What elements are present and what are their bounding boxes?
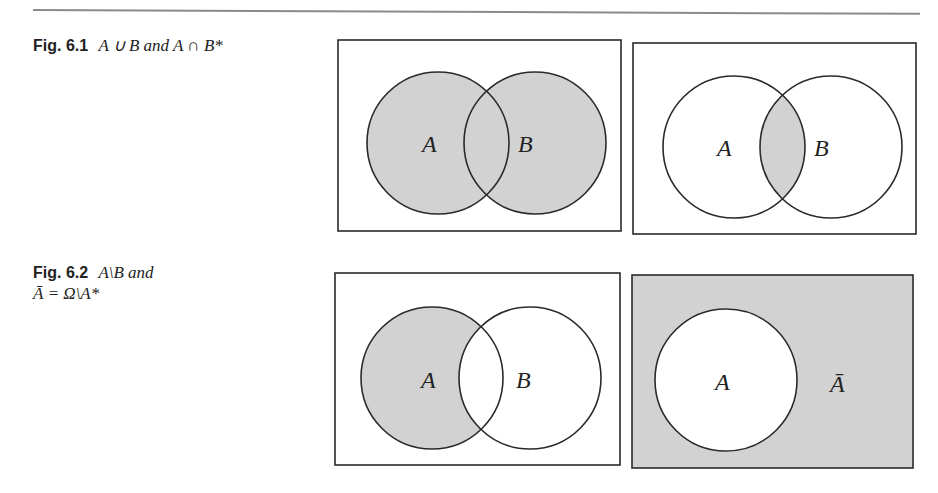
complement-label: Ā bbox=[828, 371, 845, 397]
figure-caption-6-1: Fig. 6.1 A ∪ B and A ∩ B* bbox=[33, 35, 223, 56]
caption-text: A ∪ B and A ∩ B* bbox=[98, 36, 222, 55]
caption-text: A\B and bbox=[98, 263, 153, 282]
venn-difference-panel: A B bbox=[333, 271, 623, 468]
venn-intersection-panel: A B bbox=[631, 41, 919, 237]
venn-complement-panel: A Ā bbox=[630, 273, 918, 471]
set-b-label: B bbox=[814, 135, 829, 161]
set-a-label: A bbox=[420, 131, 437, 157]
venn-union-panel: A B bbox=[336, 38, 624, 234]
caption-text-line2: Ā = Ω\A* bbox=[33, 283, 154, 304]
set-b-label: B bbox=[516, 367, 531, 393]
figure-caption-6-2: Fig. 6.2 A\B and Ā = Ω\A* bbox=[33, 262, 154, 304]
figure-label: Fig. 6.1 bbox=[33, 37, 88, 54]
set-a-label: A bbox=[715, 135, 732, 161]
figure-label: Fig. 6.2 bbox=[33, 264, 88, 281]
set-a-label: A bbox=[419, 367, 436, 393]
set-a-label: A bbox=[713, 369, 730, 395]
set-b-label: B bbox=[518, 131, 533, 157]
top-rule bbox=[33, 9, 920, 15]
